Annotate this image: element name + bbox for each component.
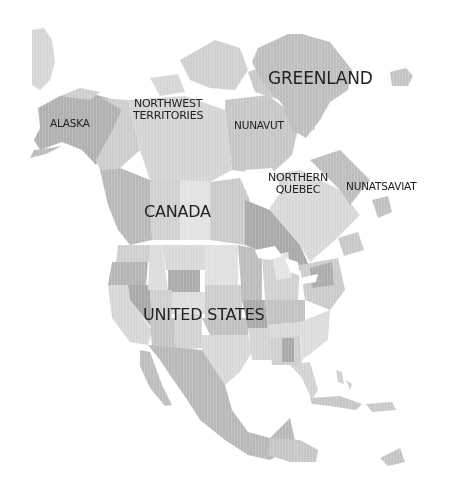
label-northwest-territories: NORTHWEST TERRITORIES [133,98,203,121]
label-northern-quebec: NORTHERN QUEBEC [268,172,328,195]
north-america-map [0,0,462,496]
label-northwest-territories-line2: TERRITORIES [133,110,203,122]
label-nunatsiavut: NUNATSAVIAT [346,181,416,192]
label-northwest-territories-line1: NORTHWEST [133,98,203,110]
print-texture-overlay [0,0,462,496]
label-northern-quebec-line2: QUEBEC [268,184,328,196]
label-united-states: UNITED STATES [143,307,265,324]
label-northern-quebec-line1: NORTHERN [268,172,328,184]
label-alaska: ALASKA [50,118,90,129]
label-canada: CANADA [144,204,211,221]
label-nunavut: NUNAVUT [234,120,284,131]
label-greenland: GREENLAND [268,70,373,88]
